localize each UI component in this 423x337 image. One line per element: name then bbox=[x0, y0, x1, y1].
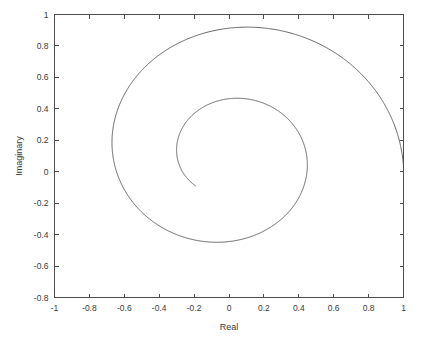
x-axis-tick-labels: -1-0.8-0.6-0.4-0.200.20.40.60.81 bbox=[51, 303, 406, 313]
x-tick-label: 0.4 bbox=[293, 303, 305, 313]
y-tick-label: 0 bbox=[44, 167, 49, 177]
x-tick-label: -0.2 bbox=[187, 303, 202, 313]
y-tick-label: -0.4 bbox=[34, 230, 49, 240]
x-tick-label: 0.2 bbox=[258, 303, 270, 313]
x-tick-label: -1 bbox=[51, 303, 59, 313]
x-tick-label: -0.8 bbox=[82, 303, 97, 313]
curve-layer bbox=[112, 27, 403, 242]
y-axis-title: Imaginary bbox=[14, 136, 24, 176]
axes-frame bbox=[55, 15, 404, 298]
y-tick-label: 0.8 bbox=[37, 41, 49, 51]
x-tick-label: -0.6 bbox=[117, 303, 132, 313]
x-tick-label: 1 bbox=[401, 303, 406, 313]
x-tick-label: -0.4 bbox=[152, 303, 167, 313]
x-tick-label: 0.8 bbox=[363, 303, 375, 313]
y-tick-label: -0.2 bbox=[34, 198, 49, 208]
x-axis-ticks bbox=[55, 15, 404, 298]
x-axis-title: Real bbox=[220, 322, 239, 332]
y-tick-label: -0.8 bbox=[34, 293, 49, 303]
y-axis-ticks bbox=[55, 15, 404, 298]
x-tick-label: 0 bbox=[227, 303, 232, 313]
axes-box bbox=[55, 15, 404, 298]
y-axis-tick-labels: -0.8-0.6-0.4-0.200.20.40.60.81 bbox=[34, 10, 49, 303]
y-tick-label: 0.2 bbox=[37, 135, 49, 145]
y-tick-label: 0.4 bbox=[37, 104, 49, 114]
y-tick-label: -0.6 bbox=[34, 261, 49, 271]
spiral-curve bbox=[112, 27, 403, 242]
y-tick-label: 1 bbox=[44, 10, 49, 20]
x-tick-label: 0.6 bbox=[328, 303, 340, 313]
figure-panel: -1-0.8-0.6-0.4-0.200.20.40.60.81 -0.8-0.… bbox=[0, 0, 423, 337]
y-tick-label: 0.6 bbox=[37, 72, 49, 82]
spiral-plot-chart: -1-0.8-0.6-0.4-0.200.20.40.60.81 -0.8-0.… bbox=[0, 0, 423, 337]
